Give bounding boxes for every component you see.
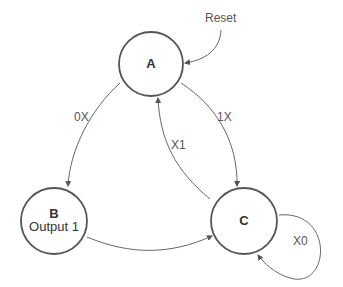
label-1x: 1X — [217, 111, 232, 123]
state-a: A — [131, 57, 171, 70]
state-b: B Output 1 — [14, 207, 94, 233]
label-x1: X1 — [171, 139, 186, 151]
label-0x: 0X — [74, 111, 89, 123]
state-c-label: C — [224, 214, 264, 227]
reset-label: Reset — [205, 12, 236, 24]
transition-b-to-c — [87, 236, 212, 250]
transition-a-to-c — [181, 83, 237, 186]
state-c: C — [224, 214, 264, 227]
reset-arrow — [185, 30, 221, 63]
state-b-output: Output 1 — [14, 220, 94, 233]
state-a-label: A — [131, 57, 171, 70]
transition-a-to-b — [68, 83, 120, 186]
label-x0: X0 — [293, 235, 308, 247]
